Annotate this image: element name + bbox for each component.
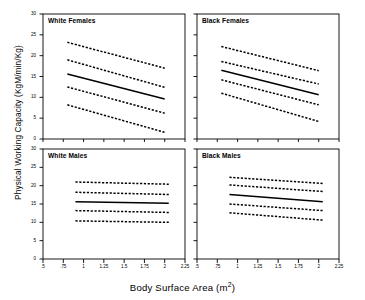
panel-frame-black-females <box>197 14 339 139</box>
chart-figure: Physical Working Capacity (KgM/min/Kg) B… <box>0 0 365 300</box>
y-tick-label-white-males-3: 15 <box>22 201 36 206</box>
panel-frame-white-females <box>43 14 185 139</box>
panel-title-white-females: White Females <box>48 17 95 24</box>
y-tick-label-white-females-0: 0 <box>22 136 36 141</box>
series-line-black-males-lower-50 <box>229 204 322 211</box>
series-line-black-females-upper-50 <box>221 62 318 85</box>
series-line-black-females-lower-50 <box>221 80 318 105</box>
series-line-black-males-upper-95 <box>229 177 322 183</box>
panel-title-black-males: Black Males <box>202 152 241 159</box>
plot-area <box>0 0 365 300</box>
x-axis-title-main: Body Surface Area (m <box>130 282 228 293</box>
x-tick-label-black-males-1: .75 <box>209 264 225 269</box>
series-line-black-males-upper-50 <box>229 185 322 192</box>
y-tick-label-white-females-6: 30 <box>22 11 36 16</box>
y-axis-title: Physical Working Capacity (KgM/min/Kg) <box>14 43 23 203</box>
y-tick-label-white-females-3: 15 <box>22 74 36 79</box>
series-line-white-males-upper-50 <box>75 192 168 194</box>
x-axis-title: Body Surface Area (m2) <box>0 281 365 293</box>
series-line-black-males-lower-95 <box>229 213 322 220</box>
series-line-black-females-mean <box>221 70 318 95</box>
y-tick-label-white-males-2: 10 <box>22 219 36 224</box>
x-tick-label-black-males-2: 1 <box>230 264 246 269</box>
series-line-black-females-upper-95 <box>221 47 318 71</box>
y-tick-label-white-males-5: 25 <box>22 164 36 169</box>
x-tick-label-black-males-3: 1.25 <box>250 264 266 269</box>
series-line-black-males-mean <box>229 194 322 201</box>
series-line-white-females-mean <box>67 74 164 99</box>
panel-title-white-males: White Males <box>48 152 87 159</box>
panel-frame-white-males <box>43 149 185 259</box>
panel-title-black-females: Black Females <box>202 17 249 24</box>
x-tick-label-black-males-0: .5 <box>189 264 205 269</box>
x-tick-label-black-males-7: 2.25 <box>331 264 347 269</box>
x-tick-label-black-males-6: 2 <box>311 264 327 269</box>
x-tick-label-white-males-1: .75 <box>55 264 71 269</box>
y-tick-label-white-females-5: 25 <box>22 32 36 37</box>
series-line-white-males-lower-50 <box>75 211 168 213</box>
x-tick-label-white-males-4: 1.5 <box>116 264 132 269</box>
series-line-white-males-upper-95 <box>75 182 168 184</box>
y-tick-label-white-males-1: 5 <box>22 238 36 243</box>
y-tick-label-white-females-4: 20 <box>22 53 36 58</box>
panel-frame-black-males <box>197 149 339 259</box>
x-tick-label-black-males-4: 1.5 <box>270 264 286 269</box>
series-line-white-males-mean <box>75 202 168 203</box>
series-line-black-females-lower-95 <box>221 93 318 121</box>
x-tick-label-white-males-6: 2 <box>157 264 173 269</box>
y-tick-label-white-females-1: 5 <box>22 115 36 120</box>
y-tick-label-white-males-0: 0 <box>22 256 36 261</box>
series-line-white-males-lower-95 <box>75 221 168 222</box>
y-tick-label-white-males-4: 20 <box>22 183 36 188</box>
x-tick-label-black-males-5: 1.75 <box>290 264 306 269</box>
y-tick-label-white-males-6: 30 <box>22 146 36 151</box>
x-axis-title-tail: ) <box>232 282 235 293</box>
x-tick-label-white-males-5: 1.75 <box>136 264 152 269</box>
x-tick-label-white-males-3: 1.25 <box>96 264 112 269</box>
x-tick-label-white-males-2: 1 <box>76 264 92 269</box>
x-tick-label-white-males-0: .5 <box>35 264 51 269</box>
y-tick-label-white-females-2: 10 <box>22 94 36 99</box>
